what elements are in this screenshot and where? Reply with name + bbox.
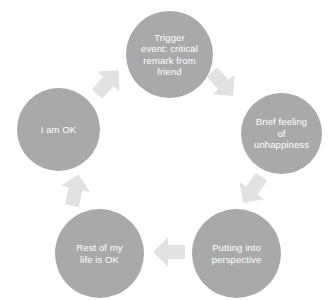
node-putting-into-perspective[interactable]: Putting into perspective — [192, 209, 281, 298]
node-putting-into-perspective-label: Putting into perspective — [206, 242, 268, 265]
cycle-diagram: Trigger event: critical remark from frie… — [0, 0, 330, 300]
arrow-unhappiness-to-perspective — [232, 168, 274, 210]
arrow-i-am-ok-to-trigger — [86, 62, 128, 104]
node-trigger-event-label: Trigger event: critical remark from frie… — [135, 32, 204, 78]
node-i-am-ok-label: I am OK — [35, 124, 83, 136]
node-trigger-event[interactable]: Trigger event: critical remark from frie… — [126, 11, 213, 98]
node-rest-of-life-ok[interactable]: Rest of my life is OK — [55, 209, 144, 298]
node-i-am-ok[interactable]: I am OK — [17, 88, 100, 171]
node-brief-unhappiness-label: Brief feeling of unhappiness — [248, 116, 315, 151]
arrow-rest-of-life-to-i-am-ok — [54, 170, 96, 212]
node-brief-unhappiness[interactable]: Brief feeling of unhappiness — [241, 93, 322, 174]
node-rest-of-life-ok-label: Rest of my life is OK — [70, 242, 128, 265]
arrow-perspective-to-rest-of-life — [149, 231, 191, 273]
